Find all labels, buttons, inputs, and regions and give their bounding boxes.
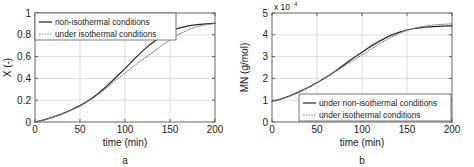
legend-label-2: under isothermal conditions <box>319 110 420 120</box>
x-tick-label: 200 <box>444 124 461 135</box>
legend-label-2: under isothermal conditions <box>55 29 156 39</box>
panel-label-b: b <box>359 155 365 166</box>
y-tick-label: 0 <box>262 117 268 128</box>
y-tick-label: 0.6 <box>17 51 31 62</box>
x-tick-label: 0 <box>32 124 38 135</box>
x-tick-label: 0 <box>269 124 275 135</box>
y-tick-label: 0 <box>25 117 31 128</box>
y-axis-title: X (-) <box>2 58 13 77</box>
legend-label-1: under non-isothermal conditions <box>319 98 437 108</box>
legend-label-1: non-isothermal conditions <box>55 17 150 27</box>
x-tick-label: 50 <box>74 124 86 135</box>
plot-area-a: 05010015020000.20.40.60.81time (min)X (-… <box>0 0 237 167</box>
panel-label-a: a <box>122 155 128 166</box>
x-tick-label: 200 <box>207 124 224 135</box>
y-tick-label: 0.2 <box>17 95 31 106</box>
x-tick-label: 50 <box>311 124 323 135</box>
x-tick-label: 100 <box>354 124 371 135</box>
y-tick-label: 3 <box>262 51 268 62</box>
y-tick-label: 2 <box>262 73 268 84</box>
x-axis-title: time (min) <box>340 137 384 148</box>
y-tick-label: 0.4 <box>17 73 31 84</box>
figure-container: 05010015020000.20.40.60.81time (min)X (-… <box>0 0 474 167</box>
y-tick-label: 4 <box>262 29 268 40</box>
chart-panel-a: 05010015020000.20.40.60.81time (min)X (-… <box>0 0 237 167</box>
x-axis-title: time (min) <box>103 137 147 148</box>
legend-box: non-isothermal conditionsunder isotherma… <box>35 13 176 40</box>
legend-box: under non-isothermal conditionsunder iso… <box>299 94 451 121</box>
y-tick-label: 1 <box>25 8 31 19</box>
x-tick-label: 100 <box>117 124 134 135</box>
y-tick-label: 5 <box>262 8 268 19</box>
plot-area-b: 050100150200012345time (min)MN (g/mol)x … <box>237 0 474 167</box>
x-tick-label: 150 <box>399 124 416 135</box>
y-axis-title: MN (g/mol) <box>239 43 250 92</box>
chart-panel-b: 050100150200012345time (min)MN (g/mol)x … <box>237 0 474 167</box>
y-tick-label: 0.8 <box>17 29 31 40</box>
y-axis-multiplier: x 10 <box>274 2 290 12</box>
y-tick-label: 1 <box>262 95 268 106</box>
x-tick-label: 150 <box>162 124 179 135</box>
